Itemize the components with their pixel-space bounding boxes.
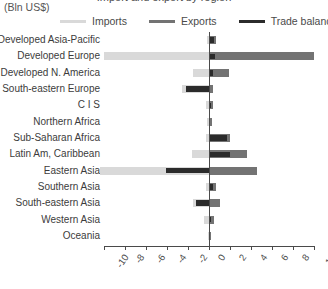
axis-tick: [167, 246, 168, 250]
category-label: Southern Asia: [38, 181, 100, 192]
category-label: Developed Asia-Pacific: [0, 34, 100, 45]
category-label: Oceania: [63, 230, 100, 241]
legend-swatch-exports: [149, 20, 175, 23]
legend-label-exports: Exports: [181, 15, 217, 27]
bar-balance: [209, 152, 230, 158]
axis-tick-label: 2: [236, 252, 248, 263]
bar-balance: [166, 168, 209, 174]
axis-tick-label: 0: [215, 252, 227, 263]
bar-exports: [209, 199, 220, 207]
chart-row: [104, 81, 328, 97]
axis-tick: [209, 246, 210, 250]
bar-imports: [192, 150, 209, 158]
legend-item-imports: Imports: [60, 15, 127, 27]
axis-tick: [104, 246, 105, 250]
bar-exports: [209, 167, 257, 175]
category-label: Sub-Saharan Africa: [13, 132, 100, 143]
axis-tick: [251, 246, 252, 250]
axis-tick: [314, 246, 315, 250]
axis-tick-label: -10: [114, 252, 131, 270]
category-label: Eastern Asia: [44, 165, 100, 176]
axis-tick-label: 6: [278, 252, 290, 263]
category-label: Developed Europe: [17, 50, 100, 61]
bar-balance: [209, 135, 227, 141]
category-label: C I S: [78, 99, 100, 110]
chart-row: [104, 48, 328, 64]
chart-row: [104, 97, 328, 113]
chart-row: [104, 114, 328, 130]
axis-tick: [188, 246, 189, 250]
axis-tick-label: -8: [133, 252, 147, 265]
axis-tick-label: 4: [257, 252, 269, 263]
chart-row: [104, 228, 328, 244]
category-label: Northern Africa: [33, 116, 100, 127]
axis-tick: [293, 246, 294, 250]
bar-balance: [186, 86, 209, 92]
zero-reference-line: [209, 32, 210, 248]
axis-tick: [230, 246, 231, 250]
axis-tick-label: -2: [196, 252, 210, 265]
chart-row: [104, 65, 328, 81]
axis-tick: [125, 246, 126, 250]
chart-row: [104, 146, 328, 162]
chart-row: [104, 179, 328, 195]
chart-row: [104, 162, 328, 178]
legend-item-exports: Exports: [149, 15, 217, 27]
plot-area: Developed Asia-PacificDeveloped EuropeDe…: [0, 32, 328, 247]
chart-row: [104, 195, 328, 211]
legend-swatch-imports: [60, 20, 86, 23]
category-label: Western Asia: [41, 214, 100, 225]
bar-imports: [193, 69, 209, 77]
chart-row: [104, 32, 328, 48]
category-label: South-eastern Europe: [2, 83, 100, 94]
category-label: Developed N. America: [1, 67, 101, 78]
chart-root: Import and export by region (Bln US$) Im…: [0, 0, 328, 289]
legend-label-trade-balance: Trade balance: [271, 15, 328, 27]
category-label: South-eastern Asia: [16, 197, 101, 208]
axis-tick: [272, 246, 273, 250]
axis-tick: [146, 246, 147, 250]
chart-row: [104, 211, 328, 227]
chart-legend: Imports Exports Trade balance: [60, 14, 322, 28]
category-label: Latin Am, Caribbean: [9, 148, 100, 159]
axis-tick-label: 10: [323, 252, 328, 267]
bar-imports: [104, 52, 209, 60]
axis-tick-label: -4: [175, 252, 189, 265]
category-axis-labels: Developed Asia-PacificDeveloped EuropeDe…: [0, 32, 104, 244]
axis-tick-label: 8: [299, 252, 311, 263]
legend-swatch-trade-balance: [239, 20, 265, 23]
value-axis: -10-8-6-4-20246810: [104, 246, 328, 289]
bar-exports: [209, 52, 314, 60]
bar-balance: [196, 200, 209, 206]
legend-label-imports: Imports: [92, 15, 127, 27]
bars-container: [104, 32, 328, 244]
axis-tick-label: -6: [154, 252, 168, 265]
legend-item-trade-balance: Trade balance: [239, 15, 328, 27]
chart-subtitle: (Bln US$): [4, 1, 50, 13]
chart-row: [104, 130, 328, 146]
